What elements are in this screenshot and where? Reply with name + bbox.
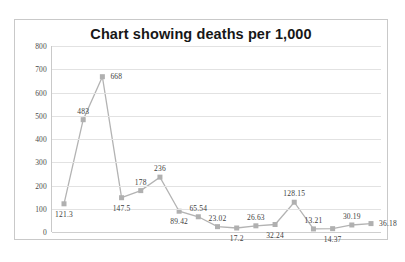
y-axis: 8007006005004003002001000 (15, 46, 47, 232)
data-point-label: 17.2 (230, 234, 244, 243)
gridline (52, 116, 381, 117)
data-point-marker[interactable] (81, 117, 86, 122)
gridline (52, 69, 381, 70)
gridline (52, 232, 381, 233)
y-axis-tick-label: 300 (17, 158, 47, 167)
data-point-marker[interactable] (100, 74, 105, 79)
data-point-label: 668 (110, 72, 122, 81)
plot-wrapper: 8007006005004003002001000 121.3483668147… (15, 20, 387, 239)
y-axis-tick-label: 400 (17, 135, 47, 144)
data-point-marker[interactable] (330, 226, 335, 231)
data-point-label: 14.37 (324, 235, 342, 244)
y-axis-tick-label: 200 (17, 181, 47, 190)
data-point-label: 89.42 (170, 217, 188, 226)
gridline (52, 162, 381, 163)
y-axis-tick-label: 500 (17, 111, 47, 120)
data-point-label: 23.02 (209, 214, 227, 223)
data-point-label: 13.21 (305, 216, 323, 225)
data-point-marker[interactable] (369, 221, 374, 226)
data-point-marker[interactable] (119, 195, 124, 200)
data-point-label: 65.54 (189, 204, 207, 213)
data-point-marker[interactable] (273, 222, 278, 227)
gridline (52, 93, 381, 94)
data-point-label: 26.63 (247, 213, 265, 222)
plot-area: 121.3483668147.517823689.4265.5423.0217.… (51, 46, 381, 232)
y-axis-tick-label: 100 (17, 204, 47, 213)
y-axis-tick-label: 0 (17, 228, 47, 237)
gridline (52, 209, 381, 210)
y-axis-tick-label: 600 (17, 88, 47, 97)
data-point-marker[interactable] (311, 226, 316, 231)
series-line (64, 77, 371, 229)
data-point-marker[interactable] (292, 200, 297, 205)
data-point-label: 128.15 (283, 189, 305, 198)
gridline (52, 46, 381, 47)
data-point-marker[interactable] (215, 224, 220, 229)
data-point-label: 36.18 (379, 219, 397, 228)
data-point-label: 30.19 (343, 212, 361, 221)
data-point-label: 121.3 (55, 210, 73, 219)
data-point-label: 32.24 (266, 231, 284, 240)
gridline (52, 139, 381, 140)
data-point-label: 483 (77, 107, 89, 116)
data-point-marker[interactable] (62, 201, 67, 206)
y-axis-tick-label: 800 (17, 42, 47, 51)
data-point-marker[interactable] (349, 222, 354, 227)
y-axis-tick-label: 700 (17, 65, 47, 74)
chart-container: Chart showing deaths per 1,000 800700600… (14, 19, 388, 240)
data-point-label: 236 (154, 164, 166, 173)
gridline (52, 186, 381, 187)
data-point-marker[interactable] (138, 188, 143, 193)
data-point-marker[interactable] (157, 175, 162, 180)
data-point-label: 178 (135, 178, 147, 187)
data-point-marker[interactable] (234, 226, 239, 231)
data-point-marker[interactable] (253, 223, 258, 228)
data-point-marker[interactable] (196, 214, 201, 219)
data-point-label: 147.5 (113, 204, 131, 213)
